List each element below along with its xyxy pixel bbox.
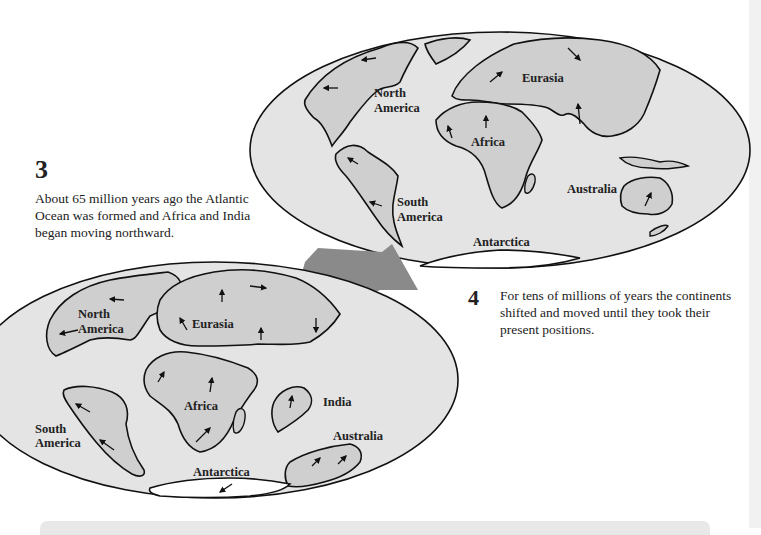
present-label-north-america-2: America [374,101,421,115]
present-label-antarctica: Antarctica [473,235,530,249]
present-label-eurasia: Eurasia [522,71,564,85]
past-label-south-america-1: South [35,422,66,436]
present-label-south-america-2: America [397,210,444,224]
step-4-number: 4 [468,287,500,338]
present-day-map: North America Eurasia Africa South Ameri… [250,32,750,268]
present-label-australia: Australia [567,182,618,196]
step-3-number: 3 [35,156,255,184]
step-3-text: About 65 million years ago the Atlantic … [35,190,255,241]
past-label-africa: Africa [184,399,219,413]
past-label-australia: Australia [333,429,384,443]
past-label-antarctica: Antarctica [193,465,250,479]
step-4-caption: 4 For tens of millions of years the cont… [468,287,748,338]
present-australia [621,177,673,214]
past-label-eurasia: Eurasia [192,317,234,331]
present-label-south-america-1: South [397,195,428,209]
present-label-africa: Africa [471,135,506,149]
past-label-south-america-2: America [35,436,82,450]
present-label-north-america-1: North [374,86,406,100]
step-3-caption: 3 About 65 million years ago the Atlanti… [35,156,255,241]
past-label-india: India [323,395,352,409]
past-map: North America Eurasia Africa India South… [0,262,458,498]
step-4-text: For tens of millions of years the contin… [500,287,748,338]
past-label-north-america-2: America [78,322,125,336]
past-label-north-america-1: North [78,307,110,321]
